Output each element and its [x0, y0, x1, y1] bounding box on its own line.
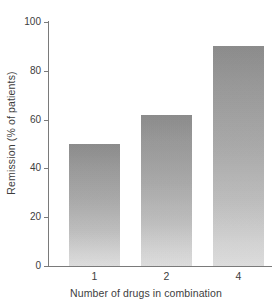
y-axis-tick-label: 20: [30, 210, 41, 223]
y-axis-tick: 40: [0, 168, 48, 169]
x-axis-tick-label: 2: [141, 270, 192, 282]
bar-texture: [213, 46, 264, 266]
y-axis-tick-label: 80: [30, 64, 41, 77]
y-axis-title-text: Remission (% of patients): [5, 71, 17, 194]
bar: [69, 144, 120, 266]
y-axis-tick: 100: [0, 22, 48, 23]
x-axis-line: [48, 266, 272, 267]
bar-fill: [69, 144, 120, 266]
y-axis-tick: 80: [0, 71, 48, 72]
y-axis-title: Remission (% of patients): [0, 0, 22, 266]
plot-area: [48, 22, 272, 266]
bar: [213, 46, 264, 266]
y-axis-tick: 0: [0, 266, 48, 267]
bar-fill: [213, 46, 264, 266]
x-axis-tick-label: 4: [213, 270, 264, 282]
x-axis-tick-label: 1: [69, 270, 120, 282]
bar: [141, 115, 192, 266]
y-axis-tick: 60: [0, 120, 48, 121]
x-axis-title: Number of drugs in combination: [20, 287, 272, 299]
bar-texture: [69, 144, 120, 266]
y-axis-tick-mark: [44, 266, 48, 267]
bar-texture: [141, 115, 192, 266]
y-axis-tick-label: 60: [30, 113, 41, 126]
y-axis-tick: 20: [0, 217, 48, 218]
bar-fill: [141, 115, 192, 266]
y-axis-tick-label: 40: [30, 161, 41, 174]
bar-chart-figure: Remission (% of patients) 020406080100 1…: [0, 0, 278, 305]
y-axis-tick-label: 0: [35, 259, 41, 272]
y-axis-tick-label: 100: [24, 15, 41, 28]
